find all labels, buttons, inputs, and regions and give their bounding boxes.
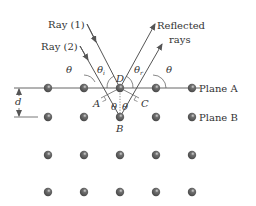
plane-a-label: Plane A	[199, 83, 238, 94]
atom	[44, 113, 52, 121]
atom	[44, 188, 52, 196]
atom	[116, 151, 124, 159]
atom	[188, 84, 196, 92]
theta-r-label: θr	[134, 64, 144, 76]
atom	[152, 151, 160, 159]
theta-r-arc	[126, 76, 133, 88]
reflected-ray1	[120, 24, 155, 88]
atom-d	[116, 84, 124, 92]
plane-b-atoms	[44, 113, 196, 121]
theta-label-bottom-right: θ	[122, 101, 128, 112]
point-b-label: B	[115, 123, 123, 134]
reflected-label-line1: Reflected	[157, 20, 206, 31]
atom	[44, 84, 52, 92]
atom	[188, 188, 196, 196]
bragg-diffraction-diagram: d	[0, 0, 256, 206]
atom	[152, 84, 160, 92]
theta-label-right: θ	[166, 64, 172, 75]
theta-i-arc	[107, 76, 114, 88]
reflected-label-line2: rays	[169, 34, 191, 45]
atom	[152, 188, 160, 196]
atom-b	[116, 113, 124, 121]
ray1-arrow	[87, 24, 96, 42]
theta-arc-left	[84, 75, 95, 82]
point-d-label: D	[115, 73, 124, 84]
atom	[80, 113, 88, 121]
atom	[188, 151, 196, 159]
theta-label-left: θ	[66, 64, 72, 75]
row3-atoms	[44, 151, 196, 159]
spacing-indicator: d	[14, 89, 38, 117]
atom	[80, 84, 88, 92]
atom	[44, 151, 52, 159]
atom	[116, 188, 124, 196]
spacing-label: d	[15, 96, 21, 107]
atom	[152, 113, 160, 121]
theta-label-bottom-left: θ	[111, 101, 117, 112]
atom	[80, 151, 88, 159]
row4-atoms	[44, 188, 196, 196]
ray1-label: Ray (1)	[48, 19, 85, 30]
ray2-arrow	[80, 46, 88, 60]
theta-i-label: θi	[97, 64, 105, 76]
atom	[80, 188, 88, 196]
point-a-label: A	[92, 98, 100, 109]
atom	[188, 113, 196, 121]
ray2-label: Ray (2)	[41, 41, 78, 52]
point-c-label: C	[141, 98, 149, 109]
plane-b-label: Plane B	[199, 112, 238, 123]
